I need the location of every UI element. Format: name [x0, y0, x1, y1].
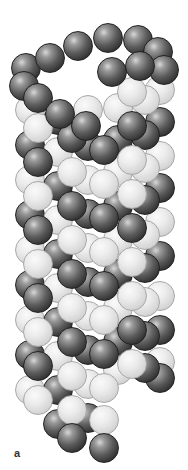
- sphere-subunit-dark: [35, 43, 65, 73]
- sphere-subunit-dark: [57, 423, 87, 453]
- sphere-subunit-dark: [89, 271, 119, 301]
- sphere-subunit-light: [117, 247, 147, 277]
- sphere-subunit-light: [89, 169, 119, 199]
- sphere-subunit-light: [89, 237, 119, 267]
- sphere-subunit-dark: [23, 147, 53, 177]
- sphere-subunit-light: [57, 157, 87, 187]
- sphere-subunit-dark: [93, 23, 123, 53]
- sphere-subunit-light: [117, 179, 147, 209]
- sphere-subunit-light: [89, 373, 119, 403]
- sphere-subunit-dark: [57, 191, 87, 221]
- sphere-subunit-light: [23, 249, 53, 279]
- sphere-subunit-dark: [117, 213, 147, 243]
- sphere-subunit-light: [117, 281, 147, 311]
- sphere-subunit-dark: [57, 327, 87, 357]
- sphere-subunit-dark: [23, 283, 53, 313]
- sphere-subunit-light: [89, 305, 119, 335]
- sphere-subunit-dark: [89, 339, 119, 369]
- sphere-subunit-light: [117, 349, 147, 379]
- sphere-subunit-dark: [89, 135, 119, 165]
- sphere-subunit-light: [23, 385, 53, 415]
- sphere-subunit-light: [57, 225, 87, 255]
- sphere-subunit-dark: [117, 111, 147, 141]
- sphere-subunit-dark: [23, 351, 53, 381]
- sphere-subunit-dark: [63, 31, 93, 61]
- sphere-subunit-dark: [97, 57, 127, 87]
- panel-label: a: [14, 447, 20, 459]
- sphere-subunit-light: [23, 317, 53, 347]
- sphere-subunit-dark: [89, 433, 119, 463]
- sphere-subunit-dark: [71, 111, 101, 141]
- sphere-subunit-light: [57, 395, 87, 425]
- sphere-subunit-dark: [57, 259, 87, 289]
- sphere-subunit-light: [23, 181, 53, 211]
- sphere-subunit-dark: [89, 203, 119, 233]
- sphere-subunit-light: [57, 361, 87, 391]
- sphere-subunit-light: [117, 145, 147, 175]
- sphere-subunit-light: [57, 293, 87, 323]
- sphere-subunit-dark: [117, 315, 147, 345]
- sphere-subunit-dark: [125, 51, 155, 81]
- sphere-subunit-dark: [23, 215, 53, 245]
- sphere-subunit-light: [89, 405, 119, 435]
- sphere-tube-figure: [0, 0, 188, 470]
